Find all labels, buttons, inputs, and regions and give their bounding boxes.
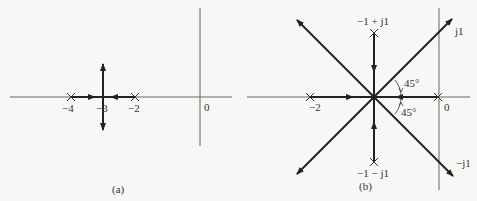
root-locus-figures [0,0,477,201]
asymptote-upper-left [297,20,374,97]
angle-label-lower: 45° [401,107,416,118]
pole-label-minus2: −2 [128,103,140,114]
panel-a [10,8,232,146]
pole-label-b-minus2: −2 [309,102,321,113]
centroid-point [372,95,377,100]
pole-label-b-lower: −1 − j1 [357,168,389,179]
direction-arrow-right [88,94,96,100]
angle-arc-upper [395,80,401,97]
pole-label-minus4: −4 [62,103,74,114]
asymptote-label-upper: j1 [455,26,464,37]
pole-label-b-zero: 0 [444,102,450,113]
breakaway-label: −3 [96,103,108,114]
origin-label-a: 0 [204,102,210,113]
caption-a: (a) [112,184,124,195]
arrow-from-minus2 [346,94,354,100]
arrow-lower-pole [371,121,377,129]
panel-b [247,8,470,190]
caption-b: (b) [359,181,372,192]
arrow-from-zero [395,94,403,100]
pole-label-b-upper: −1 + j1 [357,16,389,27]
asymptote-label-lower: −j1 [456,158,471,169]
direction-arrow-left [110,94,118,100]
arrow-upper-pole [371,65,377,73]
angle-label-upper: 45° [404,78,419,89]
